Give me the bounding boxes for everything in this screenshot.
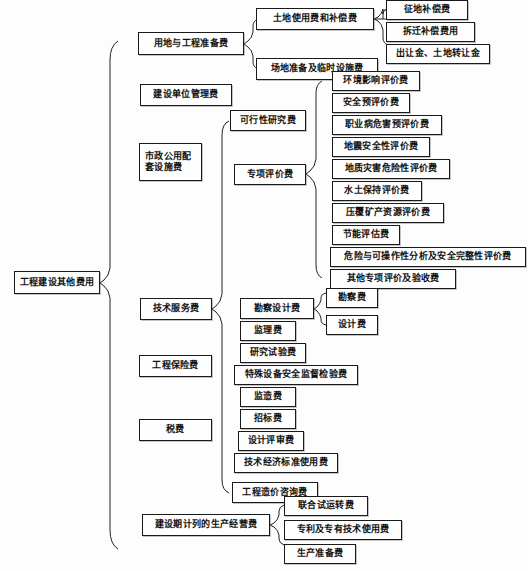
eval-child-hazop-sil[interactable]: 危险与可操作性分析及安全完整性评价费: [330, 247, 526, 267]
production-child-joint-trial-run[interactable]: 联合试运转费: [284, 496, 368, 516]
tech-child-special-equipment-inspection[interactable]: 特殊设备安全监督检验费: [234, 365, 358, 385]
eval-child-environmental-impact[interactable]: 环境影响评价费: [332, 71, 420, 91]
land-prep-child-land-use-compensation[interactable]: 土地使用费和补偿费: [256, 8, 374, 30]
tree-diagram: 工程建设其他费用 用地与工程准备费 建设单位管理费 市政公用配套设施费 技术服务…: [0, 0, 528, 571]
land-use-child-land-acquisition[interactable]: 征地补偿费: [386, 0, 468, 20]
tech-child-tendering[interactable]: 招标费: [240, 409, 296, 429]
tech-child-feasibility-study[interactable]: 可行性研究费: [230, 110, 306, 131]
tech-child-supervision[interactable]: 监理费: [240, 321, 296, 341]
level1-node-engineering-insurance[interactable]: 工程保险费: [139, 355, 212, 377]
tech-child-special-evaluation[interactable]: 专项评价费: [234, 164, 306, 185]
production-child-patent-technology[interactable]: 专利及专有技术使用费: [284, 520, 402, 540]
eval-child-geological-hazard[interactable]: 地质灾害危险性评价费: [332, 159, 450, 179]
eval-child-occupational-disease[interactable]: 职业病危害预评价费: [332, 115, 442, 135]
eval-child-other-special-acceptance[interactable]: 其他专项评价及验收费: [330, 269, 456, 289]
eval-child-soil-water-conservation[interactable]: 水土保持评价费: [332, 181, 422, 201]
tech-child-technical-economic-standard[interactable]: 技术经济标准使用费: [234, 453, 338, 473]
level1-node-production-operating[interactable]: 建设期计列的生产经营费: [142, 514, 270, 536]
level1-node-municipal-facilities[interactable]: 市政公用配套设施费: [139, 143, 202, 181]
tech-child-manufacturing-supervision[interactable]: 监造费: [240, 387, 296, 407]
level1-node-technical-service[interactable]: 技术服务费: [140, 298, 212, 320]
land-use-child-transfer-fee[interactable]: 出让金、土地转让金: [386, 44, 490, 64]
survey-design-child-design[interactable]: 设计费: [326, 315, 378, 335]
tech-child-research-testing[interactable]: 研究试验费: [240, 343, 306, 363]
eval-child-mineral-resource[interactable]: 压覆矿产资源评价费: [332, 203, 444, 223]
land-use-child-demolition-compensation[interactable]: 拆迁补偿费用: [386, 22, 475, 42]
tech-child-design-review[interactable]: 设计评审费: [238, 431, 304, 451]
level1-node-owner-management[interactable]: 建设单位管理费: [140, 84, 232, 106]
tech-child-survey-design[interactable]: 勘察设计费: [240, 298, 314, 319]
eval-child-energy-saving[interactable]: 节能评估费: [332, 225, 400, 245]
level1-node-taxes-fees[interactable]: 税费: [139, 419, 212, 441]
survey-design-child-survey[interactable]: 勘察费: [326, 288, 378, 308]
eval-child-safety-pre-assessment[interactable]: 安全预评价费: [332, 93, 410, 113]
root-node[interactable]: 工程建设其他费用: [14, 271, 100, 294]
level1-node-land-prep[interactable]: 用地与工程准备费: [138, 32, 244, 55]
eval-child-seismic-safety[interactable]: 地震安全性评价费: [332, 137, 430, 157]
production-child-production-preparation[interactable]: 生产准备费: [284, 544, 356, 564]
